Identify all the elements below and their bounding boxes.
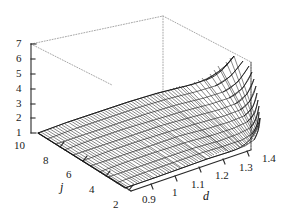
d-tick-label-1-4: 1.4 [262,153,276,164]
z-tick-label-5: 5 [16,68,22,79]
z-tick-label-6: 6 [16,53,22,64]
z-axis [31,44,36,133]
surface-steep-edge-ribs [206,56,260,140]
z-tick-label-4: 4 [16,83,22,94]
d-tick-label-1: 1 [172,187,178,198]
z-tick-label-3: 3 [16,98,22,109]
j-tick-label-8: 8 [43,155,49,166]
d-axis-title: d [203,190,209,202]
d-tick-label-1-2: 1.2 [215,170,229,181]
j-tick-label-4: 4 [89,184,95,195]
d-tick-label-1-3: 1.3 [239,162,253,173]
z-tick-label-7: 7 [16,38,22,49]
j-tick-label-6: 6 [66,169,72,180]
j-tick-label-2: 2 [113,199,119,210]
z-tick-label-2: 2 [16,112,22,123]
j-axis-title: j [60,181,63,193]
surface-plot-figure: 7 6 5 4 3 2 1 10 8 6 4 2 0.9 1 1.1 1.2 1… [0,0,285,224]
j-tick-label-10: 10 [14,140,25,151]
bounding-box-dotted [31,16,251,150]
plot-canvas [0,0,285,224]
d-tick-label-0-9: 0.9 [142,194,156,205]
z-tick-label-1: 1 [16,127,22,138]
